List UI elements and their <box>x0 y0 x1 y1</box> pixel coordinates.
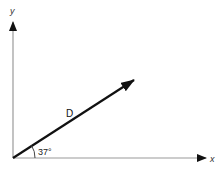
vector-label: D <box>66 108 73 119</box>
vector-diagram: y x D 37° <box>0 0 224 174</box>
angle-label: 37° <box>38 147 52 157</box>
x-axis-label: x <box>209 154 215 164</box>
y-axis-label: y <box>9 6 15 16</box>
vector-d <box>13 80 134 158</box>
angle-arc <box>32 146 36 159</box>
